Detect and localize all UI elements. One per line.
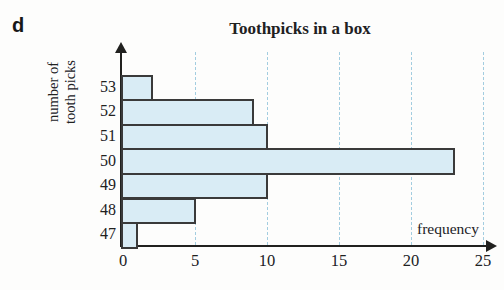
x-tick-label-5: 5	[175, 251, 215, 271]
y-tick-label-52: 52	[82, 101, 116, 121]
x-tick-label-15: 15	[319, 251, 359, 271]
chart-title: Toothpicks in a box	[130, 19, 470, 39]
y-axis-label: number of tooth picks	[42, 42, 82, 142]
gridline-x-25	[483, 52, 484, 245]
bar-48	[121, 198, 196, 225]
x-tick-label-0: 0	[103, 251, 143, 271]
bar-53	[121, 75, 153, 102]
y-tick-label-50: 50	[82, 151, 116, 171]
y-tick-label-49: 49	[82, 175, 116, 195]
x-axis-line	[120, 245, 487, 247]
x-tick-label-25: 25	[463, 251, 503, 271]
y-tick-label-47: 47	[82, 224, 116, 244]
y-axis-arrow-icon	[115, 42, 127, 53]
y-axis-label-line-2: tooth picks	[62, 60, 78, 124]
y-tick-label-51: 51	[82, 126, 116, 146]
part-label: d	[12, 14, 24, 37]
worksheet-figure: d Toothpicks in a box number of tooth pi…	[0, 0, 504, 290]
bar-52	[121, 99, 254, 126]
bar-49	[121, 173, 268, 200]
y-tick-label-53: 53	[82, 77, 116, 97]
bar-50	[121, 148, 455, 175]
bar-51	[121, 124, 268, 151]
x-tick-label-10: 10	[247, 251, 287, 271]
x-tick-label-20: 20	[391, 251, 431, 271]
bar-47	[121, 222, 138, 249]
x-axis-label: frequency	[389, 220, 479, 238]
y-tick-label-48: 48	[82, 200, 116, 220]
y-axis-label-line-1: number of	[45, 62, 61, 122]
